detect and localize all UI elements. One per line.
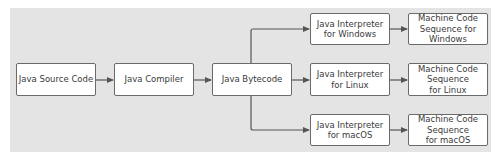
node-interpreter-linux: Java Interpreter for Linux [310,63,390,96]
node-machine-code-macos: Machine Code Sequence for macOS [408,114,488,146]
arrow-bytecode-to-windows [251,29,309,63]
node-java-source-code: Java Source Code [16,63,96,96]
node-machine-code-windows: Machine Code Sequence for Windows [408,13,488,45]
node-interpreter-windows: Java Interpreter for Windows [310,13,390,45]
node-java-compiler: Java Compiler [114,63,194,96]
node-interpreter-macos: Java Interpreter for macOS [310,114,390,146]
arrow-bytecode-to-macos [251,96,309,130]
node-machine-code-linux: Machine Code Sequence for Linux [408,63,488,96]
node-java-bytecode: Java Bytecode [212,63,292,96]
